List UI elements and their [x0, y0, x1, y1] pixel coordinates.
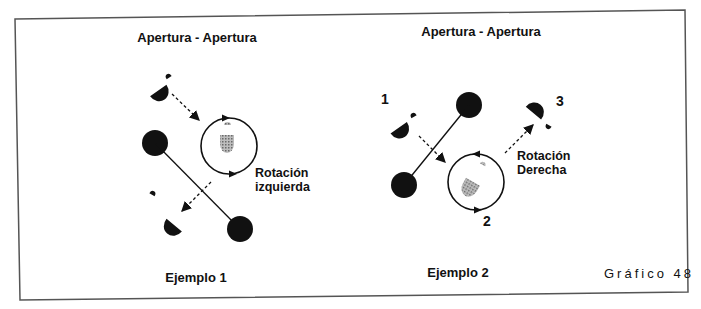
dashed-arrow-icon	[172, 94, 199, 120]
rotation-circle-icon	[201, 115, 257, 178]
pass-line	[404, 105, 469, 185]
player-head-icon	[409, 112, 416, 118]
step-label-2: 2	[483, 213, 491, 229]
rotation-circle-icon	[448, 151, 504, 214]
player-shape-icon	[391, 122, 414, 142]
arrowhead-left-icon	[474, 207, 482, 214]
player-head-shaded-icon	[480, 161, 487, 167]
player-shape-icon	[159, 219, 181, 240]
arrowhead-right-icon	[472, 151, 480, 158]
arrowhead-right-icon	[229, 171, 237, 178]
player-head-icon	[164, 73, 171, 80]
panel-example-1: Apertura - Apertura	[137, 30, 311, 285]
player-head-icon	[149, 190, 156, 196]
figure-caption: Gráfico 48	[604, 266, 694, 281]
player-shape-icon	[526, 98, 548, 119]
example-label: Ejemplo 1	[165, 270, 226, 285]
dashed-arrow-icon	[182, 182, 211, 211]
figure-border	[15, 10, 688, 300]
pass-line	[155, 143, 240, 229]
player-head-icon	[544, 124, 551, 130]
player-shape-icon	[150, 85, 173, 105]
player-shaded-icon	[220, 135, 234, 153]
rotation-label-line2: izquierda	[255, 180, 311, 194]
step-label-3: 3	[556, 93, 564, 109]
player-shaded-icon	[458, 178, 480, 200]
panel-2-title: Apertura - Apertura	[421, 24, 541, 39]
step-label-1: 1	[381, 91, 389, 107]
rotation-label-line2: Derecha	[517, 163, 567, 177]
diagram-canvas: Apertura - Apertura	[0, 0, 701, 309]
panel-example-2: Apertura - Apertura 1	[381, 24, 570, 280]
rotation-label-line1: Rotación	[517, 149, 570, 163]
ball-icon	[391, 172, 417, 198]
panel-1-title: Apertura - Apertura	[137, 30, 257, 45]
player-head-shaded-icon	[224, 122, 231, 125]
arrowhead-left-icon	[222, 115, 230, 122]
example-label: Ejemplo 2	[427, 265, 488, 280]
rotation-label-line1: Rotación	[255, 166, 308, 180]
ball-icon	[227, 216, 253, 242]
